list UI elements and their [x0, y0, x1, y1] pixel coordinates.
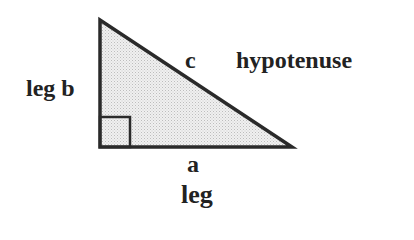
leg-b-label: leg b — [26, 76, 75, 100]
side-c-label: c — [185, 48, 196, 72]
side-a-label: a — [187, 152, 199, 176]
hypotenuse-label: hypotenuse — [236, 48, 352, 72]
leg-a-label: leg — [181, 182, 213, 208]
